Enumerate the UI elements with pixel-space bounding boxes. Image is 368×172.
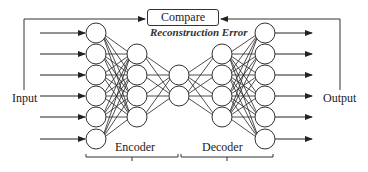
encoder-hidden-node <box>127 107 147 127</box>
decoder-hidden-node <box>212 86 232 106</box>
input-node <box>86 44 106 64</box>
decoder-label: Decoder <box>202 141 243 153</box>
decoder-hidden-node <box>212 107 232 127</box>
connection-edge <box>102 117 131 139</box>
brackets <box>86 154 273 161</box>
output-label: Output <box>323 92 356 104</box>
output-node <box>255 44 275 64</box>
connection-edge <box>228 117 259 139</box>
encoder-label: Encoder <box>115 141 155 153</box>
encoder-hidden-node <box>127 86 147 106</box>
encoder-hidden-node <box>127 65 147 85</box>
compare-label: Compare <box>161 10 205 25</box>
connection-edge <box>143 96 173 117</box>
input-node <box>86 65 106 85</box>
connection-edge <box>102 33 131 54</box>
connection-edge <box>228 33 259 96</box>
encoder-hidden-node <box>127 44 147 64</box>
connection-edge <box>143 54 173 75</box>
compare-box: Compare <box>147 9 219 26</box>
connection-edge <box>185 96 216 117</box>
bottleneck-node <box>169 65 189 85</box>
decoder-hidden-node <box>212 65 232 85</box>
bottleneck-node <box>169 86 189 106</box>
output-node <box>255 23 275 43</box>
connection-edge <box>185 54 216 75</box>
input-node <box>86 129 106 149</box>
output-node <box>255 65 275 85</box>
input-node <box>86 107 106 127</box>
output-node <box>255 107 275 127</box>
encoder-bracket <box>86 154 178 161</box>
connection-edge <box>228 96 259 139</box>
output-node <box>255 129 275 149</box>
decoder-hidden-node <box>212 44 232 64</box>
input-node <box>86 23 106 43</box>
input-label: Input <box>12 92 37 104</box>
output-node <box>255 86 275 106</box>
decoder-bracket <box>181 154 273 161</box>
input-node <box>86 86 106 106</box>
reconstruction-error-label: Reconstruction Error <box>150 27 248 38</box>
